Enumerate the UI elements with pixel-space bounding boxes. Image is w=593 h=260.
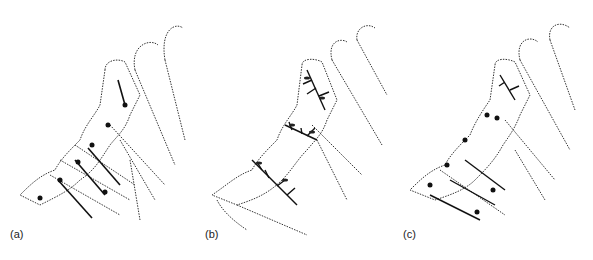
panel-b-drawing (197, 0, 395, 240)
panel-c-drawing (395, 0, 593, 240)
panel-a: (a) (0, 0, 198, 260)
panel-b: (b) (197, 0, 395, 260)
panel-a-drawing (0, 0, 198, 240)
panel-label-b: (b) (205, 228, 218, 240)
panel-c: (c) (395, 0, 593, 260)
panel-label-c: (c) (403, 228, 416, 240)
panel-label-a: (a) (10, 228, 23, 240)
